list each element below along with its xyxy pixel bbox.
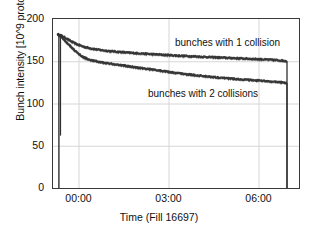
x-tick-label: 06:00 bbox=[237, 193, 281, 204]
y-tick-label: 200 bbox=[14, 13, 44, 24]
chart-figure: Bunch intensity [10^9 protons] 050100150… bbox=[0, 0, 318, 234]
annotation-bunches-2-collisions: bunches with 2 collisions bbox=[148, 88, 258, 99]
x-axis-title: Time (Fill 16697) bbox=[0, 211, 318, 223]
y-tick-label: 50 bbox=[14, 140, 44, 151]
y-tick-label: 0 bbox=[14, 182, 44, 193]
y-tick-label: 150 bbox=[14, 55, 44, 66]
x-tick-label: 03:00 bbox=[147, 193, 191, 204]
y-tick-label: 100 bbox=[14, 98, 44, 109]
annotation-bunches-1-collision: bunches with 1 collision bbox=[175, 37, 280, 48]
x-tick-label: 00:00 bbox=[57, 193, 101, 204]
